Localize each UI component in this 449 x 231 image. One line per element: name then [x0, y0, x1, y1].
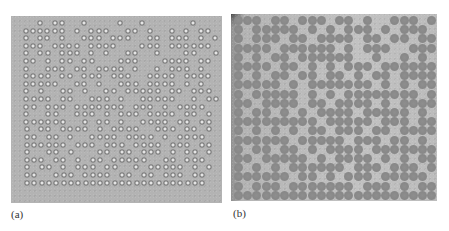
particle [363, 25, 372, 34]
particle [234, 108, 243, 117]
particle [363, 182, 372, 191]
particle [400, 136, 409, 145]
particle [96, 28, 102, 34]
particle [90, 180, 96, 186]
particle [206, 96, 212, 102]
particle [206, 111, 212, 117]
particle [23, 28, 29, 34]
particle [97, 126, 103, 132]
particle [141, 149, 147, 155]
particle [381, 99, 390, 108]
particle [409, 71, 418, 80]
particle [90, 157, 96, 163]
particle [30, 43, 36, 49]
particle [308, 71, 317, 80]
particle [234, 44, 243, 53]
particle [96, 43, 102, 49]
particle [418, 99, 427, 108]
particle [163, 157, 169, 163]
particle [53, 111, 59, 117]
particle [308, 117, 317, 126]
particle [52, 28, 58, 34]
particle [53, 142, 59, 148]
particle [354, 126, 363, 135]
particle [198, 58, 204, 64]
particle [363, 117, 372, 126]
particle [234, 16, 243, 25]
particle [60, 96, 66, 102]
particle [271, 163, 280, 172]
particle [418, 108, 427, 117]
particle [234, 53, 243, 62]
particle [271, 25, 280, 34]
particle [170, 142, 176, 148]
particle [409, 25, 418, 34]
particle [262, 62, 271, 71]
particle [381, 182, 390, 191]
particle [45, 58, 51, 64]
particle [262, 136, 271, 145]
particle [400, 172, 409, 181]
particle [280, 44, 289, 53]
particle [119, 180, 125, 186]
particle [148, 134, 154, 140]
particle [103, 66, 109, 72]
particle [46, 180, 52, 186]
particle [243, 136, 252, 145]
particle [118, 81, 124, 87]
particle [308, 145, 317, 154]
particle [354, 99, 363, 108]
particle [45, 81, 51, 87]
particle [97, 134, 103, 140]
particle [400, 90, 409, 99]
particle [97, 149, 103, 155]
particle [177, 104, 183, 110]
particle [39, 164, 45, 170]
particle [155, 119, 161, 125]
particle [198, 35, 204, 41]
particle [155, 96, 161, 102]
particle [176, 43, 182, 49]
particle [363, 99, 372, 108]
particle [317, 163, 326, 172]
particle [289, 90, 298, 99]
particle [169, 66, 175, 72]
particle [154, 66, 160, 72]
particle [289, 191, 298, 200]
particle [280, 108, 289, 117]
particle [81, 66, 87, 72]
particle [74, 43, 80, 49]
particle [59, 28, 65, 34]
particle [199, 157, 205, 163]
particle [75, 157, 81, 163]
particle [37, 20, 43, 26]
particle [205, 43, 211, 49]
particle [67, 73, 73, 79]
particle [53, 180, 59, 186]
particle [119, 142, 125, 148]
particle [418, 182, 427, 191]
particle [24, 134, 30, 140]
particle [271, 71, 280, 80]
particle [52, 66, 58, 72]
particle [53, 157, 59, 163]
particle [104, 104, 110, 110]
particle [354, 191, 363, 200]
particle [354, 62, 363, 71]
particle [262, 117, 271, 126]
particle [126, 180, 132, 186]
particle [184, 73, 190, 79]
particle [262, 44, 271, 53]
particle [111, 104, 117, 110]
particle [89, 58, 95, 64]
particle [198, 81, 204, 87]
particle [308, 191, 317, 200]
particle [213, 96, 219, 102]
particle [104, 96, 110, 102]
particle [363, 16, 372, 25]
particle [133, 81, 139, 87]
particle [125, 35, 131, 41]
particle [354, 71, 363, 80]
particle [234, 99, 243, 108]
particle [418, 191, 427, 200]
